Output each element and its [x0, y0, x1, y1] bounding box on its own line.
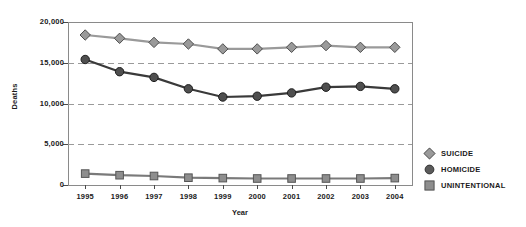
legend-item-unintentional[interactable]: UNINTENTIONAL	[424, 178, 524, 192]
chart-figure: Deaths 05,00010,00015,00020,000 19951996…	[0, 0, 526, 227]
legend-item-label: SUICIDE	[441, 149, 473, 158]
legend-item-homicide[interactable]: HOMICIDE	[424, 162, 524, 176]
square-marker-icon	[425, 180, 435, 190]
legend-item-suicide[interactable]: SUICIDE	[424, 146, 524, 160]
legend-item-label: UNINTENTIONAL	[441, 181, 506, 190]
x-tick-label: 2004	[373, 192, 417, 201]
legend-item-label: HOMICIDE	[441, 165, 481, 174]
chart-legend: SUICIDEHOMICIDEUNINTENTIONAL	[424, 146, 524, 194]
circle-marker-icon	[425, 164, 435, 174]
x-axis-title: Year	[218, 208, 262, 217]
diamond-marker-icon	[423, 147, 435, 159]
